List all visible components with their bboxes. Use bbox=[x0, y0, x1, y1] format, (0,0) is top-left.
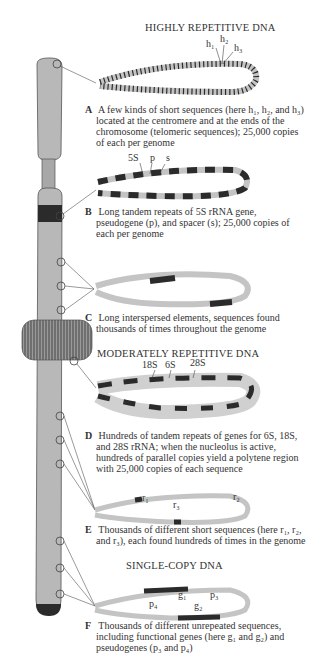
caption-b: B Long tandem repeats of 5S rRNA gene, p… bbox=[96, 206, 306, 239]
caption-letter: C bbox=[85, 312, 96, 323]
label-h3: h₃ bbox=[234, 42, 243, 53]
loop-b-5s bbox=[98, 163, 247, 196]
caption-letter: A bbox=[85, 104, 96, 115]
loop-d-rrna bbox=[98, 370, 253, 412]
heading-highly-repetitive: HIGHLY REPETITIVE DNA bbox=[145, 22, 276, 33]
caption-text: Long interspersed elements, sequences fo… bbox=[96, 312, 280, 334]
caption-e: E Thousands of different short sequences… bbox=[96, 524, 306, 546]
caption-a: A A few kinds of short sequences (here h… bbox=[96, 104, 306, 148]
label-6s: 6S bbox=[165, 359, 176, 370]
loop-f-single-copy bbox=[95, 589, 248, 618]
label-g1: g₁ bbox=[178, 589, 187, 600]
caption-text: Thousands of different unrepeated sequen… bbox=[96, 620, 284, 653]
label-r1: r₁ bbox=[142, 492, 149, 503]
caption-text: Long tandem repeats of 5S rRNA gene, pse… bbox=[96, 206, 290, 239]
caption-text: Hundreds of tandem repeats of genes for … bbox=[96, 430, 298, 474]
loop-c-line bbox=[96, 274, 248, 304]
label-s: s bbox=[166, 152, 170, 163]
caption-letter: F bbox=[85, 620, 96, 631]
label-18s: 18S bbox=[142, 359, 158, 370]
heading-moderately-repetitive: MODERATELY REPETITIVE DNA bbox=[97, 348, 259, 359]
loop-a-highly-repetitive bbox=[100, 45, 256, 92]
label-5s: 5S bbox=[128, 152, 139, 163]
caption-text: Thousands of different short sequences (… bbox=[96, 524, 306, 546]
label-g2: g₂ bbox=[194, 600, 203, 611]
label-h1: h₁ bbox=[206, 38, 215, 49]
chromosome bbox=[22, 58, 92, 616]
label-h2: h₂ bbox=[220, 33, 229, 44]
nucleolus-coil bbox=[22, 320, 92, 360]
label-r2: r₂ bbox=[233, 491, 240, 502]
telomere-cap bbox=[36, 604, 61, 616]
caption-text: A few kinds of short sequences (here h₁,… bbox=[96, 104, 304, 148]
label-p3: p₃ bbox=[210, 589, 219, 600]
loop-e-r-sequences bbox=[95, 496, 248, 523]
label-r3: r₃ bbox=[173, 499, 180, 510]
caption-f: F Thousands of different unrepeated sequ… bbox=[96, 620, 306, 653]
heading-single-copy: SINGLE-COPY DNA bbox=[126, 560, 223, 571]
label-p4: p₄ bbox=[149, 598, 158, 609]
label-p: p bbox=[150, 152, 155, 163]
caption-c: C Long interspersed elements, sequences … bbox=[96, 312, 306, 334]
caption-letter: D bbox=[85, 430, 96, 441]
caption-d: D Hundreds of tandem repeats of genes fo… bbox=[96, 430, 306, 474]
caption-letter: B bbox=[85, 206, 96, 217]
label-28s: 28S bbox=[190, 357, 206, 368]
caption-letter: E bbox=[85, 524, 96, 535]
